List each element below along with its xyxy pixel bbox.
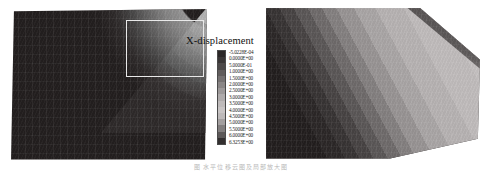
legend-title: X-displacement (186, 34, 278, 47)
colorbar-tick: 5.0000E+00 (229, 120, 253, 125)
overview-contour-panel (11, 9, 207, 161)
colorbar-tick: 6.3253E+00 (229, 140, 253, 145)
zoom-region-marker (126, 20, 204, 77)
figure-container: X-displacement -5.0228E-04 0.0000E+00 5.… (0, 0, 482, 174)
colorbar-tick: 3.5000E+00 (229, 101, 253, 106)
colorbar (217, 50, 226, 145)
colorbar-tick: 1.0000E+00 (229, 69, 253, 74)
colorbar-tick: 2.5000E+00 (229, 88, 253, 93)
legend: X-displacement -5.0228E-04 0.0000E+00 5.… (186, 34, 278, 47)
detail-contour-bands (266, 8, 480, 160)
legend-body: -5.0228E-04 0.0000E+00 5.0000E-01 1.0000… (217, 50, 253, 145)
colorbar-tick: 6.0000E+00 (229, 133, 253, 138)
figure-caption: 图 水平位移云图及局部放大图 (0, 163, 482, 171)
colorbar-tick-labels: -5.0228E-04 0.0000E+00 5.0000E-01 1.0000… (229, 50, 253, 145)
detail-contour-panel (266, 8, 480, 160)
colorbar-tick: 0.0000E+00 (229, 56, 253, 61)
